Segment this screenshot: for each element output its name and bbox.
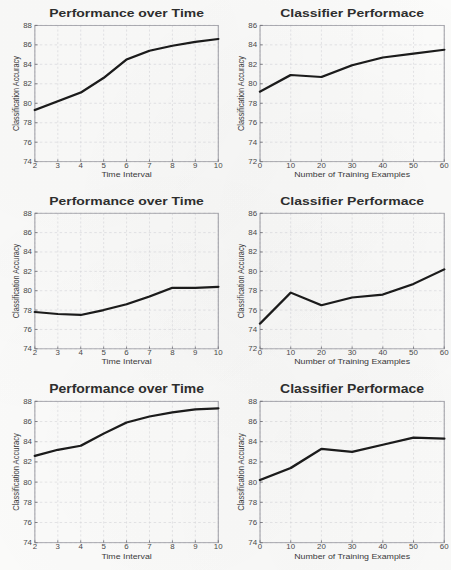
x-tick-label: 8 (170, 349, 174, 357)
chart-panel-3: Performance over Time7476788082848688234… (0, 188, 225, 375)
y-tick-label: 80 (23, 99, 32, 107)
x-tick-label: 30 (348, 162, 357, 170)
x-tick-label: 5 (101, 349, 105, 357)
y-tick-label: 88 (23, 209, 32, 217)
x-tick-label: 40 (378, 543, 387, 551)
y-tick-label: 86 (248, 418, 257, 426)
y-axis-label: Classification Accuracy (237, 432, 247, 510)
y-tick-label: 82 (248, 248, 257, 256)
series-line (35, 39, 218, 110)
y-tick-label: 74 (23, 345, 32, 353)
x-tick-label: 40 (378, 162, 387, 170)
x-tick-label: 3 (56, 162, 60, 170)
y-axis-label: Classification Accuracy (12, 244, 22, 318)
y-tick-label: 86 (248, 21, 257, 29)
x-tick-label: 8 (170, 162, 174, 170)
x-tick-label: 50 (409, 349, 418, 357)
x-tick-label: 2 (33, 543, 37, 551)
y-tick-label: 76 (23, 138, 32, 146)
x-tick-label: 4 (79, 543, 83, 551)
chart-grid: Performance over Time7476788082848688234… (0, 0, 451, 570)
x-tick-label: 30 (348, 349, 357, 357)
x-axis: 0102030405060 (258, 159, 449, 169)
y-tick-label: 84 (23, 248, 32, 256)
x-tick-label: 9 (193, 349, 197, 357)
x-axis: 0102030405060 (258, 347, 449, 357)
chart-title: Classifier Performace (280, 195, 424, 209)
x-tick-label: 7 (147, 162, 151, 170)
chart-panel-2: Classifier Performace7274767880828486010… (225, 0, 451, 188)
y-tick-label: 76 (23, 519, 32, 527)
y-tick-label: 74 (248, 539, 257, 547)
y-tick-label: 86 (248, 209, 257, 217)
y-tick-label: 88 (248, 397, 257, 405)
panel-1-svg: Performance over Time7476788082848688234… (0, 0, 225, 188)
x-tick-label: 6 (124, 162, 128, 170)
x-tick-label: 5 (101, 543, 105, 551)
gridlines (35, 213, 218, 349)
x-tick-label: 0 (258, 543, 262, 551)
x-tick-label: 10 (286, 543, 295, 551)
x-tick-label: 10 (214, 162, 223, 170)
x-tick-label: 10 (286, 162, 295, 170)
y-axis-label: Classification Accuracy (237, 55, 247, 131)
panel-2-svg: Classifier Performace7274767880828486010… (225, 0, 451, 188)
x-axis-label: Time Interval (101, 171, 152, 179)
x-tick-label: 30 (348, 543, 357, 551)
x-tick-label: 20 (317, 349, 326, 357)
x-tick-label: 7 (147, 349, 151, 357)
y-tick-label: 80 (248, 267, 257, 275)
gridlines (260, 401, 444, 542)
x-tick-label: 3 (56, 543, 60, 551)
y-tick-label: 76 (23, 326, 32, 334)
chart-title: Performance over Time (49, 382, 204, 396)
y-tick-label: 82 (23, 267, 32, 275)
y-tick-label: 74 (248, 326, 257, 334)
panel-4-svg: Classifier Performace7274767880828486010… (225, 188, 451, 375)
y-tick-label: 86 (23, 418, 32, 426)
chart-title: Performance over Time (49, 7, 204, 21)
y-tick-label: 84 (23, 60, 32, 68)
panel-5-svg: Performance over Time7476788082848688234… (0, 375, 225, 570)
y-tick-label: 80 (23, 478, 32, 486)
y-axis: 7476788082848688 (23, 209, 37, 353)
x-axis: 2345678910 (33, 540, 223, 551)
x-tick-label: 4 (79, 349, 83, 357)
x-tick-label: 6 (124, 543, 128, 551)
x-tick-label: 50 (409, 162, 418, 170)
y-tick-label: 78 (248, 99, 257, 107)
y-tick-label: 74 (23, 158, 32, 166)
x-tick-label: 10 (214, 543, 223, 551)
y-tick-label: 76 (248, 119, 257, 127)
y-tick-label: 82 (248, 60, 257, 68)
x-axis-label: Number of Training Examples (294, 552, 410, 560)
y-tick-label: 80 (23, 287, 32, 295)
y-tick-label: 84 (23, 438, 32, 446)
y-axis: 7476788082848688 (248, 397, 262, 547)
y-tick-label: 88 (23, 21, 32, 29)
y-tick-label: 72 (248, 345, 257, 353)
x-tick-label: 4 (79, 162, 83, 170)
x-axis-label: Time Interval (101, 552, 152, 560)
y-axis: 7274767880828486 (248, 21, 262, 165)
y-tick-label: 82 (23, 458, 32, 466)
series-line (260, 269, 444, 323)
y-tick-label: 82 (248, 458, 257, 466)
y-tick-label: 78 (23, 306, 32, 314)
x-tick-label: 2 (33, 162, 37, 170)
y-tick-label: 80 (248, 80, 257, 88)
x-tick-label: 0 (258, 162, 262, 170)
x-tick-label: 0 (258, 349, 262, 357)
y-tick-label: 84 (248, 41, 257, 49)
y-tick-label: 74 (23, 539, 32, 547)
x-tick-label: 10 (286, 349, 295, 357)
y-axis-label: Classification Accuracy (12, 55, 22, 131)
y-tick-label: 84 (248, 438, 257, 446)
x-tick-label: 60 (440, 162, 449, 170)
y-tick-label: 78 (23, 498, 32, 506)
y-tick-label: 76 (248, 306, 257, 314)
x-tick-label: 9 (193, 543, 197, 551)
y-tick-label: 86 (23, 41, 32, 49)
x-tick-label: 10 (214, 349, 223, 357)
x-axis-label: Number of Training Examples (294, 171, 410, 179)
